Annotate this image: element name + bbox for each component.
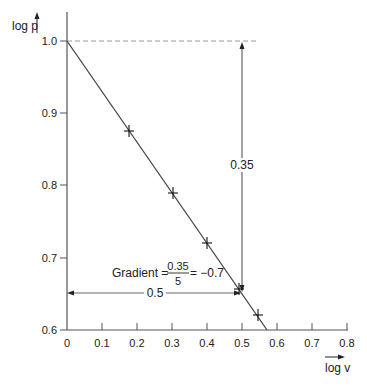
y-axis-label: log p (12, 19, 38, 33)
arrow-up-icon (240, 42, 245, 49)
gradient-label: Gradient = (112, 266, 168, 280)
x-tick-label: 0.3 (164, 337, 179, 349)
x-label-arrow-icon (325, 355, 345, 360)
x-tick-label: 0 (64, 337, 70, 349)
arrow-left-icon (67, 291, 74, 296)
y-tick-label: 0.8 (42, 179, 57, 191)
y-ticks (60, 41, 67, 330)
y-tick-label: 0.6 (42, 324, 57, 336)
x-tick-label: 0.6 (269, 337, 284, 349)
x-tick-label: 0.1 (94, 337, 109, 349)
x-tick-label: 0.8 (339, 337, 354, 349)
gradient-numerator: 0.35 (167, 260, 188, 272)
x-axis-label: log v (325, 361, 350, 375)
x-tick-label: 0.5 (234, 337, 249, 349)
vertical-dimension-label: 0.35 (230, 158, 254, 172)
gradient-denominator: 5 (175, 275, 181, 287)
best-fit-line (67, 41, 267, 330)
horizontal-dimension-label: 0.5 (147, 286, 164, 300)
y-tick-label: 0.9 (42, 107, 57, 119)
chart: 1.0 0.9 0.8 0.7 0.6 0 0.1 0.2 0.3 0.4 0.… (0, 0, 367, 386)
x-tick-label: 0.4 (199, 337, 214, 349)
x-tick-label: 0.7 (304, 337, 319, 349)
x-tick-label: 0.2 (129, 337, 144, 349)
y-tick-label: 0.7 (42, 252, 57, 264)
x-ticks (102, 323, 347, 330)
y-tick-label: 1.0 (42, 35, 57, 47)
gradient-result: = −0.7 (190, 266, 224, 280)
